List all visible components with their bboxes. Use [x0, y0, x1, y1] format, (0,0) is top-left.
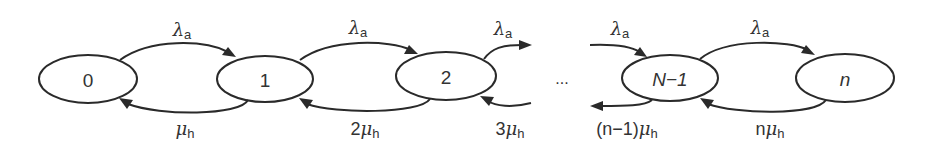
edge-ellipsis-to-2 [480, 96, 531, 106]
arrowhead-icon [590, 101, 603, 111]
edge-2-to-1 [299, 98, 430, 111]
edge-2-to-ellipsis [484, 40, 532, 59]
arrowhead-icon [700, 98, 714, 109]
edge-n-minus-1-to-ellipsis [590, 100, 652, 111]
edge-1-to-2 [300, 43, 418, 60]
edge-1-to-0 [119, 98, 248, 113]
arrowhead-icon [299, 98, 313, 109]
edge-0-to-1 [120, 43, 236, 60]
label-mu-1-0: μh [176, 118, 195, 141]
arrowhead-icon [222, 47, 236, 57]
edge-n-to-n-minus-1 [700, 98, 826, 112]
node-2-label: 2 [441, 67, 452, 88]
label-lambda-0-1: λa [172, 19, 192, 42]
label-mu-next-2: 3μh [496, 118, 525, 141]
arrowhead-icon [634, 47, 647, 57]
node-n-minus-1: N−1 [622, 55, 718, 101]
label-lambda-2-next: λa [493, 18, 513, 41]
label-mu-n-minus-1-prev: (n−1)μh [596, 118, 657, 141]
arrowhead-icon [119, 98, 133, 109]
arrowhead-icon [519, 40, 532, 50]
label-lambda-1-2: λa [348, 17, 368, 40]
node-0: 0 [39, 55, 137, 103]
label-lambda-n-minus-1-n: λa [750, 17, 770, 40]
node-n-minus-1-label: N−1 [652, 69, 687, 90]
arrowhead-icon [480, 96, 494, 106]
label-mu-2-1: 2μh [351, 118, 380, 141]
label-lambda-prev-n-minus-1: λa [610, 18, 630, 41]
node-n: n [796, 54, 894, 102]
ellipsis: ... [555, 70, 568, 87]
node-n-label: n [840, 69, 851, 90]
node-0-label: 0 [83, 70, 94, 91]
arrowhead-icon [801, 45, 815, 55]
node-1: 1 [217, 56, 313, 102]
edge-ellipsis-to-n-minus-1 [590, 45, 647, 57]
edge-n-minus-1-to-n [700, 43, 815, 59]
node-2: 2 [396, 52, 496, 100]
label-mu-n-n-minus-1: nμh [756, 118, 785, 141]
node-1-label: 1 [260, 70, 271, 91]
arrowhead-icon [404, 45, 418, 54]
state-transition-diagram: 0 1 2 N−1 n ... [0, 0, 934, 149]
